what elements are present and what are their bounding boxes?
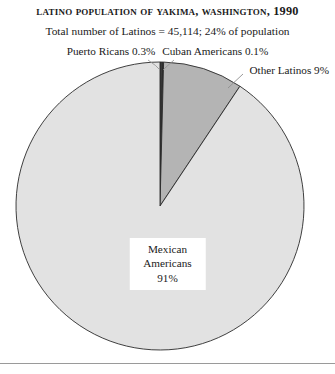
center-callout-box: Mexican Americans 91% (129, 238, 205, 290)
pie-chart (0, 0, 335, 374)
chart-page: Latino Population of Yakima, Washington,… (0, 0, 335, 374)
pie-slice-group (16, 62, 304, 350)
pie-slice-mexican-americans[interactable] (16, 62, 304, 350)
pie-chart-svg (0, 0, 335, 374)
center-label-line-3: 91% (143, 271, 191, 285)
center-label-line-1: Mexican (143, 242, 191, 256)
footer-divider (0, 363, 335, 364)
center-label-line-2: Americans (143, 256, 191, 270)
